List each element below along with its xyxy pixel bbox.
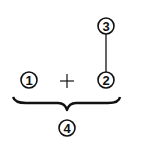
plus-operator xyxy=(60,74,74,88)
diagram-canvas: 3 1 2 4 xyxy=(0,0,149,150)
node-3: 3 xyxy=(98,18,114,34)
node-2-label: 2 xyxy=(102,73,109,88)
node-2: 2 xyxy=(98,72,114,88)
expression-diagram: 3 1 2 4 xyxy=(0,0,149,150)
node-1: 1 xyxy=(21,72,37,88)
underbrace xyxy=(13,97,120,110)
node-1-label: 1 xyxy=(25,73,32,88)
node-4: 4 xyxy=(59,120,75,136)
node-4-label: 4 xyxy=(63,121,71,136)
node-3-label: 3 xyxy=(102,19,109,34)
